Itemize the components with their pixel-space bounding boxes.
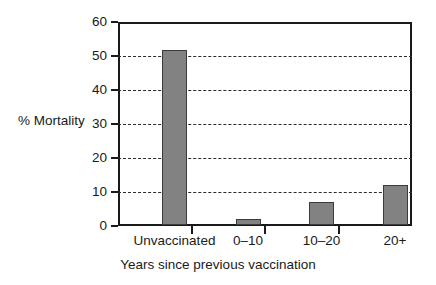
y-axis-tick-label: 40 (92, 83, 107, 97)
y-axis-tick-label: 10 (92, 185, 107, 199)
bar (309, 202, 334, 225)
bar (236, 219, 261, 225)
y-axis-title: % Mortality (18, 114, 85, 128)
bar-chart-figure: 0102030405060 Unvaccinated0–1010–2020+ %… (0, 0, 436, 285)
y-axis-tick-label: 20 (92, 151, 107, 165)
y-axis-tick (111, 21, 118, 23)
x-axis-category-label: 10–20 (303, 234, 341, 248)
y-axis-tick (111, 225, 118, 227)
y-axis-tick-label: 30 (92, 117, 107, 131)
x-axis-tick (264, 226, 266, 234)
y-axis-tick-label: 0 (99, 219, 107, 233)
x-axis-category-label: 0–10 (233, 234, 263, 248)
y-axis-tick (111, 157, 118, 159)
plot-area: 0102030405060 (118, 22, 412, 226)
y-axis-tick (111, 123, 118, 125)
y-axis-tick (111, 89, 118, 91)
x-axis-title: Years since previous vaccination (0, 258, 436, 272)
x-axis-category-label: 20+ (384, 234, 407, 248)
plot-top-border (118, 22, 412, 24)
y-axis-tick-label: 60 (92, 15, 107, 29)
bar (162, 50, 187, 225)
y-axis-tick (111, 191, 118, 193)
y-axis-tick-label: 50 (92, 49, 107, 63)
bar (383, 185, 408, 225)
x-axis-category-label: Unvaccinated (134, 234, 216, 248)
y-axis-tick (111, 55, 118, 57)
